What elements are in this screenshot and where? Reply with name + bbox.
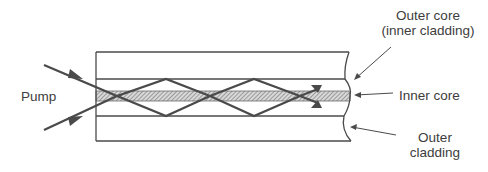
arrow-icon — [68, 116, 83, 126]
outer-cladding-label: Outer cladding — [400, 130, 470, 160]
pump-label: Pump — [21, 89, 56, 104]
inner-core-label: Inner core — [399, 88, 460, 103]
leader-lines — [352, 47, 396, 135]
inner-core-region — [96, 91, 350, 101]
outer-core-label: Outer core (inner cladding) — [373, 8, 483, 38]
arrow-icon — [68, 69, 83, 79]
outer-cladding-label-line1: Outer — [400, 130, 470, 145]
outer-core-label-line2: (inner cladding) — [373, 23, 483, 38]
outer-cladding-label-line2: cladding — [400, 145, 470, 160]
leader-arrowheads — [350, 73, 361, 130]
outer-core-label-line1: Outer core — [373, 8, 483, 23]
